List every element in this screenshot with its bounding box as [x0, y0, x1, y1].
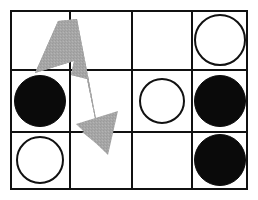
game-board[interactable]	[10, 10, 248, 190]
figure-canvas	[0, 0, 258, 200]
arrow-upper-head	[35, 19, 77, 73]
arrow-lower-head	[76, 111, 118, 155]
u-turn-move-arrow[interactable]	[10, 10, 248, 190]
